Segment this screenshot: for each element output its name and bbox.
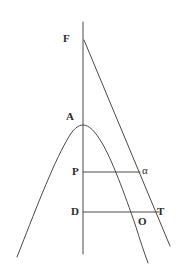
point-label-f: F: [63, 33, 70, 44]
point-label-o: O: [138, 216, 147, 227]
point-label-t: T: [157, 206, 164, 217]
figure-drawing: [0, 0, 177, 279]
angle-label-alpha: α: [142, 165, 148, 176]
point-label-a: A: [66, 111, 74, 122]
point-label-d: D: [71, 206, 79, 217]
geometry-figure-canvas: F A P D O T α: [0, 0, 177, 279]
point-label-p: P: [72, 166, 79, 177]
